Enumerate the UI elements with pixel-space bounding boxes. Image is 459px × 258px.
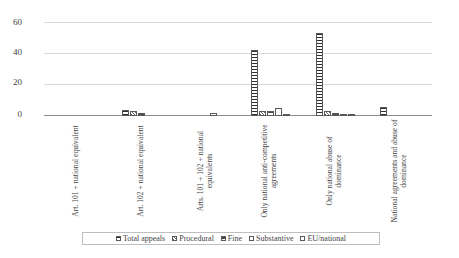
x-axis-label: Arts. 101 + 102 + national equivalents (197, 119, 214, 223)
bar (275, 108, 282, 116)
chart-legend: Total appealsProceduralFineSubstantiveEU… (82, 232, 380, 245)
bar-group (109, 22, 174, 116)
legend-label: Procedural (179, 234, 214, 243)
legend-swatch-icon (172, 236, 177, 241)
legend-label: Fine (228, 234, 242, 243)
bar-group (303, 22, 368, 116)
bar (348, 114, 355, 116)
legend-item[interactable]: EU/national (300, 234, 346, 243)
bar (138, 113, 145, 116)
bar-group (238, 22, 303, 116)
bar (283, 114, 290, 116)
y-tick-60: 60 (0, 18, 22, 27)
bar (251, 50, 258, 116)
x-axis-label-cell: National agreements and abuse of dominan… (367, 119, 432, 225)
x-axis-label-cell: Only national anti-competitive agreement… (238, 119, 303, 225)
legend-item[interactable]: Substantive (249, 234, 293, 243)
plot-area (44, 22, 432, 116)
y-tick-20: 20 (0, 78, 22, 87)
x-axis-label: Only national anti-competitive agreement… (262, 119, 279, 223)
bar (130, 111, 137, 116)
legend-swatch-icon (221, 236, 226, 241)
y-tick-40: 40 (0, 48, 22, 57)
bar (316, 33, 323, 116)
legend-item[interactable]: Procedural (172, 234, 214, 243)
x-axis-category-labels: Art. 101 + national equivalentArt. 102 +… (44, 119, 432, 225)
bar-chart: 60 40 20 0 Art. 101 + national equivalen… (0, 0, 459, 258)
bar (210, 113, 217, 116)
x-axis-label: Art. 102 + national equivalent (137, 119, 146, 223)
bar-group (44, 22, 109, 116)
x-axis-label-cell: Only national abuse of dominance (303, 119, 368, 225)
legend-swatch-icon (300, 236, 305, 241)
bar (324, 111, 331, 116)
bar (122, 110, 129, 116)
x-axis-label-cell: Arts. 101 + 102 + national equivalents (173, 119, 238, 225)
x-axis-label: National agreements and abuse of dominan… (391, 119, 408, 223)
y-tick-0: 0 (0, 110, 22, 119)
legend-label: Substantive (256, 234, 293, 243)
bar (380, 107, 387, 116)
bar (340, 114, 347, 116)
legend-swatch-icon (116, 236, 121, 241)
x-axis-label: Art. 101 + national equivalent (72, 119, 81, 223)
bar (259, 111, 266, 116)
legend-label: EU/national (307, 234, 346, 243)
bar-group (367, 22, 432, 116)
x-axis-label: Only national abuse of dominance (326, 119, 343, 223)
legend-item[interactable]: Total appeals (116, 234, 165, 243)
x-axis-label-cell: Art. 101 + national equivalent (44, 119, 109, 225)
legend-swatch-icon (249, 236, 254, 241)
legend-label: Total appeals (123, 234, 165, 243)
bar-group (173, 22, 238, 116)
bar-groups (44, 22, 432, 116)
bar (332, 113, 339, 116)
x-axis-label-cell: Art. 102 + national equivalent (109, 119, 174, 225)
legend-item[interactable]: Fine (221, 234, 242, 243)
bar (267, 111, 274, 116)
